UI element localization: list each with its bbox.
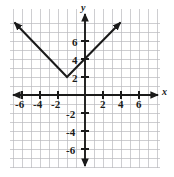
x-tick-label-6: 6 xyxy=(136,99,142,110)
x-tick-label--4: -4 xyxy=(33,99,42,110)
y-tick-label--4: -4 xyxy=(66,127,75,138)
y-tick-label--2: -2 xyxy=(66,109,75,120)
x-tick-label-2: 2 xyxy=(100,99,106,110)
x-tick-label--2: -2 xyxy=(51,99,60,110)
y-tick-label-6: 6 xyxy=(72,37,78,48)
y-tick-label--6: -6 xyxy=(66,145,75,156)
x-tick-label-4: 4 xyxy=(118,99,124,110)
y-tick-label-4: 4 xyxy=(72,55,78,66)
axes xyxy=(13,14,158,166)
x-tick-label--6: -6 xyxy=(15,99,24,110)
coordinate-plane-figure: -6 -4 -2 2 4 6 6 4 2 -2 -4 -6 x y xyxy=(0,0,174,177)
x-axis-label: x xyxy=(162,87,167,97)
y-axis-label: y xyxy=(81,3,85,13)
y-tick-label-2: 2 xyxy=(72,73,78,84)
graph-canvas xyxy=(0,0,174,177)
